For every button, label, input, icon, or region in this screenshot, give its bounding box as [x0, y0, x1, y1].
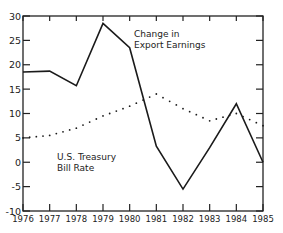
- data-dot: [242, 116, 244, 118]
- x-tick-label: 1983: [199, 214, 221, 224]
- y-tick-label: 5: [15, 132, 21, 143]
- x-tick-label: 1977: [39, 214, 61, 224]
- data-dot: [155, 93, 157, 95]
- x-tick-label: 1982: [172, 214, 194, 224]
- data-dot: [229, 114, 231, 116]
- data-dot: [149, 96, 151, 98]
- series-label: Export Earnings: [134, 40, 206, 50]
- series-label: Change in: [134, 29, 180, 39]
- y-tick-label: 30: [9, 11, 21, 22]
- data-dot: [62, 131, 64, 133]
- data-dot: [202, 117, 204, 119]
- x-tick-label: 1976: [12, 214, 34, 224]
- data-dot: [82, 124, 84, 126]
- data-dot: [235, 113, 237, 115]
- y-tick-label: 25: [9, 35, 21, 46]
- data-dot: [49, 135, 51, 137]
- data-dot: [215, 118, 217, 120]
- data-dot: [35, 136, 37, 138]
- data-dot: [55, 133, 57, 135]
- data-dot: [69, 129, 71, 131]
- data-dot: [29, 136, 31, 138]
- x-tick-label: 1984: [226, 214, 248, 224]
- x-tick-label: 1980: [119, 214, 141, 224]
- y-tick-label: 20: [9, 59, 21, 70]
- data-dot: [115, 110, 117, 112]
- series-treasury-bill-rate: [22, 93, 264, 139]
- data-dot: [249, 119, 251, 121]
- data-dot: [122, 108, 124, 110]
- x-tick-label: 1978: [66, 214, 88, 224]
- data-dot: [42, 135, 44, 137]
- data-dot: [95, 118, 97, 120]
- data-dot: [175, 104, 177, 106]
- series-label: Bill Rate: [57, 163, 95, 173]
- data-dot: [22, 137, 24, 139]
- series-label: U.S. Treasury: [57, 152, 117, 162]
- data-dot: [75, 127, 77, 129]
- data-dot: [182, 108, 184, 110]
- y-tick-label: 0: [15, 157, 21, 168]
- data-dot: [135, 102, 137, 104]
- data-dot: [222, 116, 224, 118]
- series-labels: Change inExport EarningsU.S. TreasuryBil…: [57, 29, 206, 173]
- data-dot: [129, 105, 131, 107]
- data-dot: [142, 99, 144, 101]
- data-dot: [262, 125, 264, 127]
- data-dot: [255, 122, 257, 124]
- y-tick-label: 10: [9, 108, 21, 119]
- data-dot: [109, 113, 111, 115]
- x-tick-label: 1985: [252, 214, 274, 224]
- y-tick-label: 15: [9, 84, 21, 95]
- data-dot: [189, 111, 191, 113]
- data-dot: [209, 120, 211, 122]
- line-chart: -10-5051015202530 1976197719781979198019…: [0, 0, 283, 233]
- data-dot: [195, 114, 197, 116]
- data-dot: [102, 115, 104, 117]
- data-dot: [169, 100, 171, 102]
- y-tick-label: -5: [12, 181, 21, 192]
- x-tick-label: 1979: [92, 214, 114, 224]
- data-dot: [89, 121, 91, 123]
- x-tick-label: 1981: [146, 214, 168, 224]
- data-dot: [162, 97, 164, 99]
